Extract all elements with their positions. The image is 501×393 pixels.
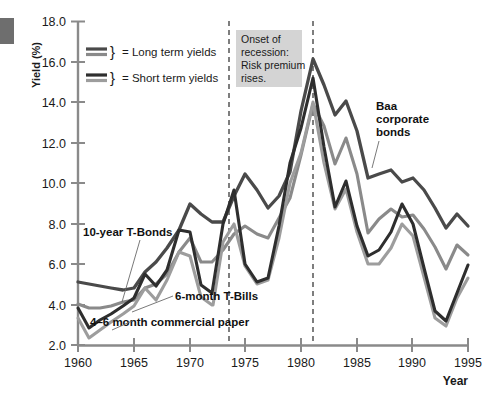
x-tick-label-1975: 1975 (231, 356, 259, 370)
y-tick-label-6: 6.0 (49, 258, 66, 272)
annotation-line-2: recession: (241, 46, 289, 58)
x-axis-title: Year (443, 374, 469, 388)
y-tick-label-18: 18.0 (42, 15, 66, 29)
legend-brace-short-term: } (110, 69, 115, 86)
y-tick-label-8: 8.0 (49, 218, 66, 232)
x-tick-label-1985: 1985 (343, 356, 371, 370)
legend-brace-long-term: } (110, 43, 115, 60)
callout-baa-line-2: corporate (376, 113, 429, 125)
legend-label-long-term-yields: = Long term yields (122, 46, 217, 58)
x-tick-label-1995: 1995 (454, 356, 482, 370)
callout-commercial-paper: 4–6 month commercial paper (90, 316, 250, 330)
y-tick-label-16: 16.0 (42, 56, 66, 70)
x-tick-label-1965: 1965 (120, 356, 148, 370)
callout-t-bonds-label: 10-year T-Bonds (83, 226, 172, 238)
callout-baa-line-3: bonds (376, 126, 411, 138)
annotation-line-1: Onset of (241, 33, 281, 45)
annotation-line-3: Risk premium (241, 59, 305, 71)
y-tick-label-10: 10.0 (42, 177, 66, 191)
y-tick-label-4: 4.0 (49, 299, 66, 313)
yield-curve-figure: 18.0 16.0 14.0 12.0 10.0 8.0 6.0 4.0 2.0… (0, 0, 501, 393)
x-tick-label-1980: 1980 (287, 356, 315, 370)
y-tick-label-2: 2.0 (49, 339, 66, 353)
recession-annotation: Onset of recession: Risk premium rises. (236, 30, 305, 87)
y-axis-title: Yield (%) (30, 42, 42, 88)
y-tick-label-12: 12.0 (42, 137, 66, 151)
legend-label-short-term-yields: = Short term yields (122, 72, 218, 84)
callout-t-bills-label: 6-month T-Bills (175, 290, 258, 302)
callout-commercial-paper-label: 4–6 month commercial paper (90, 316, 250, 328)
x-tick-label-1970: 1970 (176, 356, 204, 370)
callout-baa-line-1: Baa (376, 100, 398, 112)
x-tick-label-1960: 1960 (64, 356, 92, 370)
annotation-line-4: rises. (241, 72, 266, 84)
chart-svg: 18.0 16.0 14.0 12.0 10.0 8.0 6.0 4.0 2.0… (0, 0, 501, 393)
x-tick-label-1990: 1990 (398, 356, 426, 370)
y-tick-label-14: 14.0 (42, 96, 66, 110)
